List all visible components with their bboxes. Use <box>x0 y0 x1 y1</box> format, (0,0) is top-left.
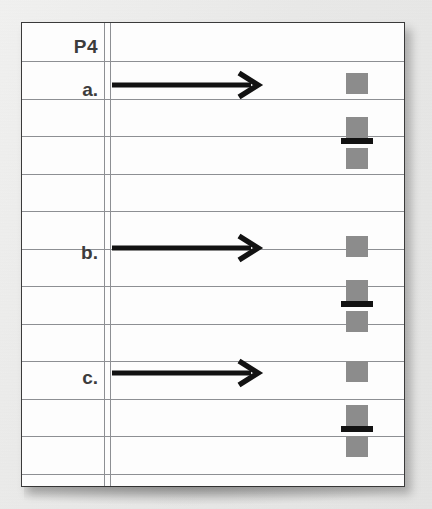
gray-square <box>346 311 368 332</box>
gray-square <box>346 280 368 301</box>
item-label-b: b. <box>28 243 98 262</box>
black-bar <box>341 301 373 307</box>
right-arrow-icon <box>112 235 264 261</box>
lined-paper-sheet: P4 a.b.c. <box>21 22 405 487</box>
gray-square <box>346 117 368 138</box>
gray-square <box>346 436 368 457</box>
margin-line-left <box>104 23 105 486</box>
page-title: P4 <box>28 37 98 56</box>
right-arrow-icon <box>112 72 264 98</box>
gray-square <box>346 73 368 94</box>
rule-line <box>22 399 404 400</box>
black-bar <box>341 426 373 432</box>
rule-line <box>22 211 404 212</box>
gray-square <box>346 236 368 257</box>
item-label-c: c. <box>28 368 98 387</box>
right-arrow-icon <box>112 360 264 386</box>
rule-line <box>22 61 404 62</box>
black-bar <box>341 138 373 144</box>
rule-line <box>22 474 404 475</box>
rule-line <box>22 174 404 175</box>
gray-square <box>346 361 368 382</box>
gray-square <box>346 148 368 169</box>
gray-square <box>346 405 368 426</box>
margin-line-right <box>110 23 111 486</box>
item-label-a: a. <box>28 80 98 99</box>
